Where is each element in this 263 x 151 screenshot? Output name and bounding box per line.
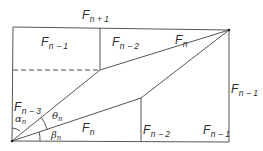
label-top-left-cell: Fn − 1 xyxy=(41,33,68,51)
angle-theta-label: θn xyxy=(52,111,63,123)
corner-dot xyxy=(228,29,231,32)
label-lower-diagonal: Fn xyxy=(82,119,95,137)
angle-beta-label: βn xyxy=(51,130,61,142)
label-bottom-right-cell: Fn − 1 xyxy=(203,121,230,139)
label-top: Fn + 1 xyxy=(82,6,109,24)
label-top-mid-cell: Fn − 2 xyxy=(112,33,139,51)
origin-dot xyxy=(11,140,14,143)
label-bottom-mid-cell: Fn − 2 xyxy=(143,121,170,139)
alpha-arc xyxy=(12,128,20,131)
label-right-side: Fn − 1 xyxy=(231,80,258,98)
label-top-diagonal: Fn xyxy=(175,31,188,49)
theta-arc xyxy=(41,117,47,129)
beta-arc xyxy=(39,132,40,141)
angle-alpha-label: αn xyxy=(15,114,26,126)
